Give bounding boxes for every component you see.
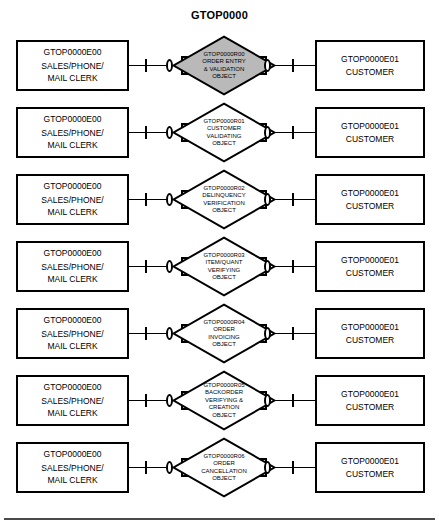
cardinality-zero-icon-right [264,59,271,72]
relationship-diamond[interactable]: GTOP0000R05BACKORDERVERIFYING &CREATIONO… [172,370,276,431]
cardinality-one-icon-left [145,193,147,206]
cardinality-one-icon-left [145,126,147,139]
entity-name-line-1: SALES/PHONE/ [41,328,103,341]
entity-code: GTOP0000E00 [44,381,102,394]
relationship-diamond[interactable]: GTOP0000R01CUSTOMERVALIDATINGOBJECT [172,102,276,163]
relationship-diamond[interactable]: GTOP0000R03ITEM/QUANTVERIFYINGOBJECT [172,236,276,297]
cardinality-one-icon-left [145,461,147,474]
cardinality-one-icon-right [292,461,294,474]
entity-name-line-1: CUSTOMER [346,468,395,481]
entity-name-line-2: MAIL CLERK [47,139,97,152]
cardinality-zero-icon-left [166,327,173,340]
entity-name-line-2: MAIL CLERK [47,72,97,85]
relationship-diamond[interactable]: GTOP0000R00ORDER ENTRY& VALIDATIONOBJECT [172,35,276,96]
entity-box-customer[interactable]: GTOP0000E01CUSTOMER [315,174,425,225]
er-relationship-row: GTOP0000E00SALES/PHONE/MAIL CLERKGTOP000… [0,434,439,501]
entity-name-line-1: CUSTOMER [346,401,395,414]
entity-code: GTOP0000E01 [341,455,399,468]
cardinality-one-icon-left [145,327,147,340]
cardinality-zero-icon-left [166,394,173,407]
cardinality-zero-icon-right [264,461,271,474]
cardinality-zero-icon-left [166,59,173,72]
cardinality-one-icon-right [292,193,294,206]
entity-code: GTOP0000E01 [341,120,399,133]
entity-box-customer[interactable]: GTOP0000E01CUSTOMER [315,375,425,426]
entity-box-clerk[interactable]: GTOP0000E00SALES/PHONE/MAIL CLERK [16,107,129,158]
diamond-shape-icon [172,437,276,498]
er-diagram-rows: GTOP0000E00SALES/PHONE/MAIL CLERKGTOP000… [0,32,439,501]
entity-name-line-2: MAIL CLERK [47,273,97,286]
cardinality-zero-icon-left [166,260,173,273]
relationship-diamond[interactable]: GTOP0000R04ORDERINVOICINGOBJECT [172,303,276,364]
cardinality-zero-icon-right [264,260,271,273]
diamond-shape-icon [172,102,276,163]
entity-name-line-1: CUSTOMER [346,267,395,280]
entity-name-line-1: SALES/PHONE/ [41,261,103,274]
diamond-shape-icon [172,370,276,431]
er-relationship-row: GTOP0000E00SALES/PHONE/MAIL CLERKGTOP000… [0,367,439,434]
entity-name-line-1: CUSTOMER [346,66,395,79]
er-relationship-row: GTOP0000E00SALES/PHONE/MAIL CLERKGTOP000… [0,32,439,99]
cardinality-zero-icon-right [264,394,271,407]
entity-box-clerk[interactable]: GTOP0000E00SALES/PHONE/MAIL CLERK [16,40,129,91]
er-relationship-row: GTOP0000E00SALES/PHONE/MAIL CLERKGTOP000… [0,300,439,367]
entity-name-line-1: SALES/PHONE/ [41,60,103,73]
entity-box-customer[interactable]: GTOP0000E01CUSTOMER [315,442,425,493]
diamond-shape-icon [172,236,276,297]
cardinality-zero-icon-left [166,461,173,474]
relationship-diamond[interactable]: GTOP0000R02DELINQUENCYVERIFICATIONOBJECT [172,169,276,230]
cardinality-zero-icon-right [264,193,271,206]
entity-name-line-1: SALES/PHONE/ [41,194,103,207]
entity-box-clerk[interactable]: GTOP0000E00SALES/PHONE/MAIL CLERK [16,308,129,359]
cardinality-one-icon-right [292,126,294,139]
entity-code: GTOP0000E01 [341,53,399,66]
cardinality-one-icon-right [292,327,294,340]
entity-name-line-1: CUSTOMER [346,200,395,213]
entity-box-customer[interactable]: GTOP0000E01CUSTOMER [315,308,425,359]
entity-box-clerk[interactable]: GTOP0000E00SALES/PHONE/MAIL CLERK [16,375,129,426]
entity-code: GTOP0000E01 [341,187,399,200]
diamond-shape-icon [172,35,276,96]
er-relationship-row: GTOP0000E00SALES/PHONE/MAIL CLERKGTOP000… [0,99,439,166]
entity-code: GTOP0000E01 [341,321,399,334]
entity-name-line-1: SALES/PHONE/ [41,127,103,140]
entity-name-line-2: MAIL CLERK [47,407,97,420]
er-relationship-row: GTOP0000E00SALES/PHONE/MAIL CLERKGTOP000… [0,233,439,300]
entity-box-clerk[interactable]: GTOP0000E00SALES/PHONE/MAIL CLERK [16,174,129,225]
entity-code: GTOP0000E01 [341,388,399,401]
cardinality-one-icon-left [145,394,147,407]
cardinality-one-icon-left [145,260,147,273]
er-relationship-row: GTOP0000E00SALES/PHONE/MAIL CLERKGTOP000… [0,166,439,233]
entity-code: GTOP0000E00 [44,180,102,193]
entity-code: GTOP0000E01 [341,254,399,267]
diamond-shape-icon [172,303,276,364]
cardinality-one-icon-right [292,59,294,72]
entity-code: GTOP0000E00 [44,46,102,59]
entity-code: GTOP0000E00 [44,113,102,126]
entity-name-line-2: MAIL CLERK [47,206,97,219]
entity-name-line-2: MAIL CLERK [47,474,97,487]
entity-name-line-1: CUSTOMER [346,133,395,146]
entity-name-line-1: SALES/PHONE/ [41,395,103,408]
entity-box-customer[interactable]: GTOP0000E01CUSTOMER [315,40,425,91]
cardinality-zero-icon-right [264,327,271,340]
entity-box-clerk[interactable]: GTOP0000E00SALES/PHONE/MAIL CLERK [16,442,129,493]
cardinality-one-icon-right [292,260,294,273]
entity-code: GTOP0000E00 [44,314,102,327]
entity-box-clerk[interactable]: GTOP0000E00SALES/PHONE/MAIL CLERK [16,241,129,292]
entity-box-customer[interactable]: GTOP0000E01CUSTOMER [315,241,425,292]
diamond-shape-icon [172,169,276,230]
entity-name-line-1: SALES/PHONE/ [41,462,103,475]
relationship-diamond[interactable]: GTOP0000R06ORDERCANCELLATIONOBJECT [172,437,276,498]
cardinality-zero-icon-left [166,193,173,206]
cardinality-zero-icon-left [166,126,173,139]
entity-name-line-2: MAIL CLERK [47,340,97,353]
entity-code: GTOP0000E00 [44,247,102,260]
entity-code: GTOP0000E00 [44,448,102,461]
entity-name-line-1: CUSTOMER [346,334,395,347]
cardinality-one-icon-right [292,394,294,407]
cardinality-one-icon-left [145,59,147,72]
cardinality-zero-icon-right [264,126,271,139]
footer-divider [4,518,435,520]
entity-box-customer[interactable]: GTOP0000E01CUSTOMER [315,107,425,158]
